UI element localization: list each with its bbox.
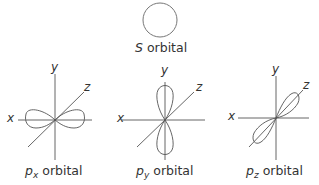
pz-orbital-diagram [238,76,309,160]
px-y-axis-label: y [51,60,58,74]
px-suffix: orbital [38,163,82,178]
px-z-axis-label: z [84,80,90,94]
py-subscript: y [144,170,149,180]
pz-x-axis-label: x [228,109,235,123]
pz-symbol: p [246,163,254,178]
pz-subscript: z [254,170,259,180]
py-orbital-label: py orbital [136,163,193,178]
pz-y-axis-label: y [272,62,279,76]
py-z-axis-label: z [196,80,202,94]
s-orbital-suffix: orbital [143,40,187,55]
pz-orbital-label: pz orbital [246,163,303,178]
px-symbol: p [25,163,33,178]
px-orbital-diagram [18,74,92,160]
py-orbital-diagram [122,82,205,160]
px-subscript: x [33,170,38,180]
py-symbol: p [136,163,144,178]
py-x-axis-label: x [117,111,124,125]
py-y-axis-label: y [161,63,168,77]
pz-z-axis-label: z [303,78,309,92]
pz-suffix: orbital [259,163,303,178]
s-orbital-label: S orbital [135,40,187,55]
orbital-diagram [0,0,319,185]
s-orbital-sphere [143,3,177,37]
s-orbital-letter: S [135,40,143,55]
py-suffix: orbital [149,163,193,178]
px-x-axis-label: x [7,111,14,125]
px-lobe-right [55,110,85,128]
px-orbital-label: px orbital [25,163,82,178]
